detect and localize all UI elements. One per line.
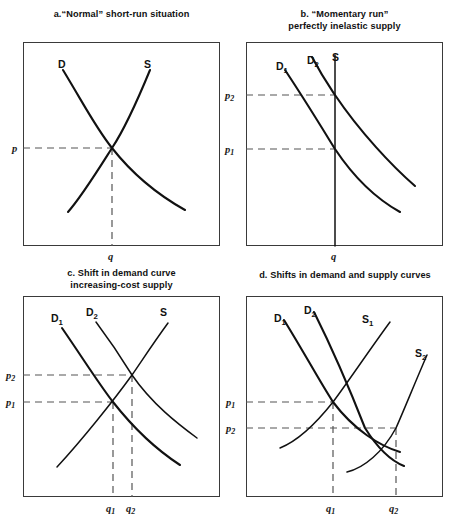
supply-demand-figure: a.“Normal” short-run situation D S p q b… xyxy=(0,0,453,530)
panel-d-label-D1: D1 xyxy=(274,312,287,327)
panel-d-price-label-p1: p1 xyxy=(225,397,235,410)
panel-d-demand-curve-2 xyxy=(314,312,404,466)
panel-d-label-S2: S2 xyxy=(415,347,427,362)
panel-d-quantity-label-q1: q1 xyxy=(326,503,335,516)
panel-d-demand-curve-1 xyxy=(284,320,400,452)
panel-d-quantity-label-q2: q2 xyxy=(389,503,398,516)
panel-d-frame xyxy=(247,297,443,497)
panel-d-label-D2: D2 xyxy=(304,304,317,319)
panel-d-plot: D1 D2 S1 S2 p1 p2 q1 q2 xyxy=(0,0,453,530)
panel-d-label-S1: S1 xyxy=(362,313,374,328)
panel-d-price-label-p2: p2 xyxy=(225,423,235,436)
